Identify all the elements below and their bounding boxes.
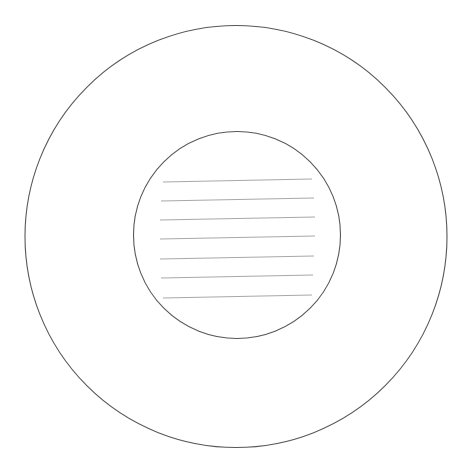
drawing-canvas [0,0,472,465]
canvas-background [0,0,472,465]
figure-two-concentric-circles [0,0,472,465]
